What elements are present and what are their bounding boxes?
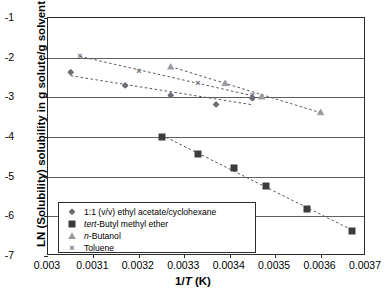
- x-axis-title-post: (K): [192, 275, 211, 287]
- cross-marker-icon: ×: [64, 242, 80, 253]
- x-axis-title: 1/T (K): [0, 275, 386, 287]
- y-tickmark: [44, 256, 48, 257]
- legend-label-2: n-Butanol: [80, 231, 121, 241]
- y-tick-label: -5: [0, 170, 14, 182]
- y-tick-label: -3: [0, 90, 14, 102]
- legend-label-3: Toluene: [80, 243, 114, 253]
- x-axis-title-pre: 1/: [175, 275, 185, 287]
- trendline-series-0: [71, 76, 253, 105]
- triangle-glyph: [68, 232, 76, 239]
- y-tick-label: -1: [0, 11, 14, 23]
- legend-item-3: ×Toluene: [64, 242, 251, 254]
- y-tick-label: -6: [0, 209, 14, 221]
- y-tick-label: -4: [0, 130, 14, 142]
- triangle-marker-icon: [64, 230, 80, 241]
- legend-label-part: -Butyl methyl ether: [96, 219, 168, 229]
- legend-label-0: 1:1 (v/v) ethyl acetate/cyclohexane: [80, 207, 216, 217]
- trendline-series-3: [80, 56, 253, 95]
- y-tick-label: -7: [0, 249, 14, 261]
- x-tick-label: 0.0037: [335, 259, 386, 271]
- y-axis-title: LN (Solubility) solubility in g solute/g…: [35, 0, 47, 249]
- y-tick-label: -2: [0, 51, 14, 63]
- chart-legend: 1:1 (v/v) ethyl acetate/cyclohexanetert-…: [58, 202, 256, 253]
- solubility-scatter-chart: LN (Solubility) solubility in g solute/g…: [0, 0, 386, 297]
- legend-label-part: -Butanol: [89, 231, 121, 241]
- cross-glyph: ×: [68, 243, 77, 252]
- legend-label-1: tert-Butyl methyl ether: [80, 219, 168, 229]
- diamond-marker-icon: [64, 206, 80, 217]
- legend-label-part: Toluene: [84, 243, 114, 253]
- legend-item-1: tert-Butyl methyl ether: [64, 218, 251, 230]
- trendline-series-2: [171, 67, 321, 113]
- legend-label-part: tert: [84, 219, 96, 229]
- diamond-glyph: [69, 208, 76, 215]
- square-glyph: [69, 220, 76, 227]
- square-marker-icon: [64, 218, 80, 229]
- legend-label-part: 1:1 (v/v) ethyl acetate/cyclohexane: [84, 207, 216, 217]
- legend-item-2: n-Butanol: [64, 230, 251, 242]
- legend-item-0: 1:1 (v/v) ethyl acetate/cyclohexane: [64, 206, 251, 218]
- x-axis-title-variable: T: [185, 275, 192, 287]
